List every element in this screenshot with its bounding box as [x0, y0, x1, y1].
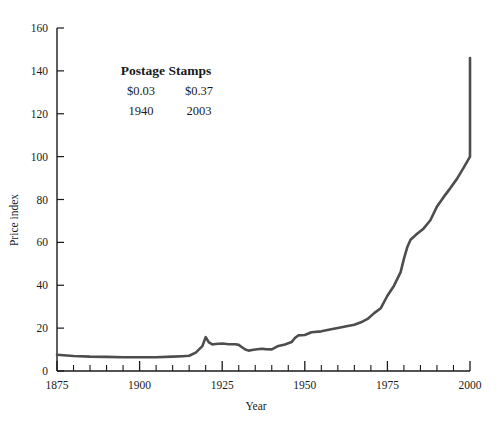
price-index-chart: 020406080100120140160 Price index 187519…	[0, 0, 498, 439]
y-tick-label-80: 80	[37, 194, 49, 206]
y-tick-label-60: 60	[37, 236, 49, 248]
chart-background	[0, 0, 498, 439]
x-tick-label-1975: 1975	[376, 379, 399, 391]
annotation-cell-price-1940: $0.03	[127, 84, 155, 98]
y-tick-label-100: 100	[31, 151, 49, 163]
annotation-cell-year-1940: 1940	[129, 104, 154, 118]
x-tick-label-1900: 1900	[128, 379, 151, 391]
x-tick-label-1925: 1925	[211, 379, 234, 391]
chart-canvas: 020406080100120140160 Price index 187519…	[0, 0, 498, 439]
y-tick-label-160: 160	[31, 22, 49, 34]
x-tick-label-1950: 1950	[293, 379, 316, 391]
y-tick-label-120: 120	[31, 108, 49, 120]
y-axis-title: Price index	[8, 194, 20, 246]
y-tick-label-140: 140	[31, 65, 49, 77]
annotation-title: Postage Stamps	[121, 63, 211, 78]
y-tick-label-20: 20	[37, 322, 49, 334]
x-axis-title: Year	[245, 400, 266, 412]
annotation-cell-price-2003: $0.37	[185, 84, 213, 98]
y-tick-label-0: 0	[42, 365, 48, 377]
annotation-cell-year-2003: 2003	[187, 104, 212, 118]
x-tick-label-2000: 2000	[459, 379, 482, 391]
y-tick-label-40: 40	[37, 279, 49, 291]
x-tick-label-1875: 1875	[46, 379, 69, 391]
